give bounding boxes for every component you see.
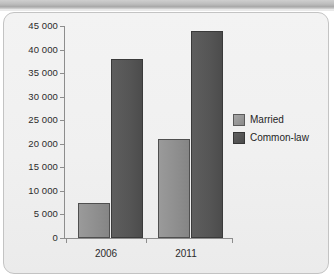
- y-tick-mark: [60, 191, 65, 192]
- y-tick-label: 0: [53, 233, 58, 243]
- y-tick-label: 10 000: [28, 186, 58, 196]
- x-tick-label-2011: 2011: [146, 249, 226, 259]
- x-tick-mark: [146, 238, 147, 243]
- chart-legend: Married Common-law: [233, 112, 309, 148]
- legend-swatch-married: [233, 114, 245, 126]
- bar-2006-married: [78, 203, 110, 238]
- y-tick-label: 40 000: [28, 45, 58, 55]
- y-tick-mark: [60, 26, 65, 27]
- legend-item-common-law[interactable]: Common-law: [233, 130, 309, 145]
- y-tick-mark: [60, 97, 65, 98]
- x-tick-mark: [66, 238, 67, 243]
- y-tick-label: 5 000: [34, 209, 58, 219]
- legend-swatch-common-law: [233, 132, 245, 144]
- y-tick-mark: [60, 167, 65, 168]
- y-tick-mark: [60, 238, 65, 239]
- bar-2011-married: [158, 139, 190, 238]
- y-tick-mark: [60, 214, 65, 215]
- y-tick-label: 25 000: [28, 115, 58, 125]
- chart-screenshot: 05 00010 00015 00020 00025 00030 00035 0…: [0, 0, 334, 278]
- legend-label-married: Married: [250, 115, 284, 125]
- x-axis-end-tick: [232, 238, 233, 243]
- legend-item-married[interactable]: Married: [233, 112, 309, 127]
- y-tick-mark: [60, 120, 65, 121]
- y-axis-line: [64, 26, 65, 239]
- bar-2011-common-law: [191, 31, 223, 238]
- x-tick-label-2006: 2006: [66, 249, 146, 259]
- y-tick-label: 15 000: [28, 162, 58, 172]
- y-tick-label: 45 000: [28, 21, 58, 31]
- y-tick-label: 30 000: [28, 92, 58, 102]
- bar-2006-common-law: [111, 59, 143, 238]
- y-tick-mark: [60, 73, 65, 74]
- legend-label-common-law: Common-law: [250, 133, 309, 143]
- y-tick-label: 35 000: [28, 68, 58, 78]
- y-tick-label: 20 000: [28, 139, 58, 149]
- y-tick-mark: [60, 50, 65, 51]
- y-tick-mark: [60, 144, 65, 145]
- x-axis-line: [64, 238, 233, 239]
